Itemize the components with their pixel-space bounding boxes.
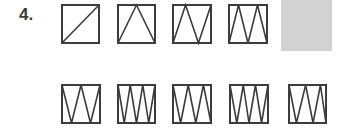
zigzag-figure-icon [229, 84, 269, 124]
sequence-figure-2 [117, 4, 156, 44]
option-figure-3[interactable] [172, 84, 212, 124]
answer-placeholder [281, 0, 332, 51]
option-figure-1[interactable] [61, 84, 101, 124]
zigzag-figure-icon [172, 84, 212, 124]
zigzag-figure-icon [228, 4, 268, 44]
zigzag-figure-icon [61, 4, 100, 44]
sequence-figure-3 [172, 4, 212, 44]
option-figure-4[interactable] [229, 84, 269, 124]
option-figure-2[interactable] [117, 84, 156, 124]
option-figure-5[interactable] [288, 84, 327, 124]
question-number: 4. [19, 5, 33, 25]
sequence-figure-4 [228, 4, 268, 44]
zigzag-figure-icon [288, 84, 327, 124]
sequence-figure-1 [61, 4, 100, 44]
zigzag-figure-icon [172, 4, 212, 44]
zigzag-figure-icon [117, 84, 156, 124]
zigzag-figure-icon [117, 4, 156, 44]
zigzag-figure-icon [61, 84, 101, 124]
